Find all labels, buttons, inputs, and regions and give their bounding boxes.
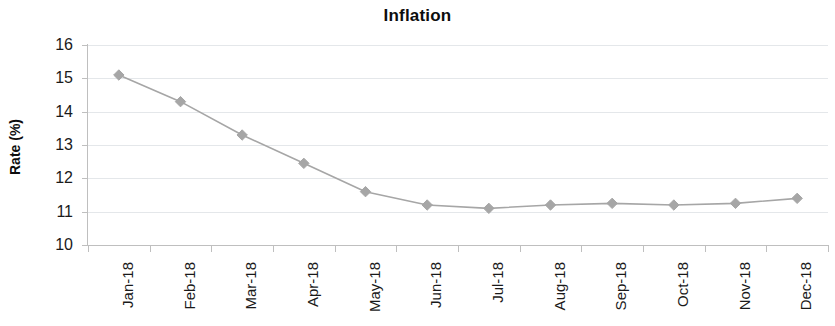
data-point-feb-18 — [175, 96, 185, 106]
chart-title: Inflation — [0, 6, 835, 26]
x-axis-label-text: Jul-18 — [489, 262, 506, 303]
data-point-may-18 — [360, 186, 370, 196]
x-axis-label-text: Mar-18 — [242, 262, 259, 310]
x-axis-label-text: Sep-18 — [612, 262, 629, 310]
y-axis-tick-label: 12 — [55, 169, 73, 187]
x-axis-label-apr-18: Apr-18 — [295, 262, 313, 324]
x-axis-label-text: Nov-18 — [736, 262, 753, 310]
inflation-line-chart: Inflation Rate (%) 16151413121110 Jan-18… — [0, 0, 835, 326]
data-point-jul-18 — [484, 203, 494, 213]
x-axis-label-jul-18: Jul-18 — [480, 262, 498, 324]
x-axis-label-jun-18: Jun-18 — [418, 262, 436, 324]
x-axis-label-text: Jun-18 — [427, 262, 444, 308]
series-line — [119, 75, 797, 208]
x-axis-tick — [396, 245, 397, 252]
x-axis-tick — [458, 245, 459, 252]
x-axis-label-text: Dec-18 — [797, 262, 814, 310]
x-axis-tick — [150, 245, 151, 252]
y-axis-tick-label: 13 — [55, 136, 73, 154]
x-axis-tick — [643, 245, 644, 252]
data-point-oct-18 — [669, 200, 679, 210]
x-axis-tick — [88, 245, 89, 252]
data-point-dec-18 — [792, 193, 802, 203]
data-point-jun-18 — [422, 200, 432, 210]
data-series-inflation — [88, 45, 828, 245]
y-axis-tick-label: 11 — [56, 203, 73, 221]
x-axis-label-jan-18: Jan-18 — [110, 262, 128, 324]
x-axis-tick — [211, 245, 212, 252]
x-axis-label-nov-18: Nov-18 — [727, 262, 745, 324]
y-axis-tick-label: 15 — [55, 69, 73, 87]
x-axis-label-feb-18: Feb-18 — [172, 262, 190, 324]
x-axis-tick — [828, 245, 829, 252]
x-axis-label-text: May-18 — [366, 262, 383, 312]
x-axis-tick — [520, 245, 521, 252]
x-axis-label-aug-18: Aug-18 — [542, 262, 560, 324]
data-point-sep-18 — [607, 198, 617, 208]
y-axis-tick-label: 16 — [55, 36, 73, 54]
data-point-nov-18 — [730, 198, 740, 208]
x-axis-label-text: Aug-18 — [551, 262, 568, 310]
y-axis-title-label: Rate (%) — [7, 119, 23, 175]
x-axis-tick — [766, 245, 767, 252]
x-axis-label-sep-18: Sep-18 — [603, 262, 621, 324]
x-axis-tick — [273, 245, 274, 252]
y-axis-tick-label: 14 — [55, 103, 73, 121]
x-axis-label-dec-18: Dec-18 — [788, 262, 806, 324]
x-axis-label-mar-18: Mar-18 — [233, 262, 251, 324]
data-point-jan-18 — [114, 70, 124, 80]
x-axis-label-text: Jan-18 — [119, 262, 136, 308]
data-point-mar-18 — [237, 130, 247, 140]
plot-area: 16151413121110 — [88, 45, 828, 245]
x-axis-label-oct-18: Oct-18 — [665, 262, 683, 324]
x-axis-label-text: Oct-18 — [674, 262, 691, 307]
data-point-aug-18 — [545, 200, 555, 210]
x-axis-tick — [581, 245, 582, 252]
x-axis-label-may-18: May-18 — [357, 262, 375, 324]
x-axis-tick — [335, 245, 336, 252]
x-axis-label-text: Feb-18 — [181, 262, 198, 310]
y-axis-title: Rate (%) — [2, 92, 28, 202]
data-point-apr-18 — [299, 158, 309, 168]
y-axis-tick-label: 10 — [55, 236, 73, 254]
x-axis-label-text: Apr-18 — [304, 262, 321, 307]
x-axis-tick — [705, 245, 706, 252]
